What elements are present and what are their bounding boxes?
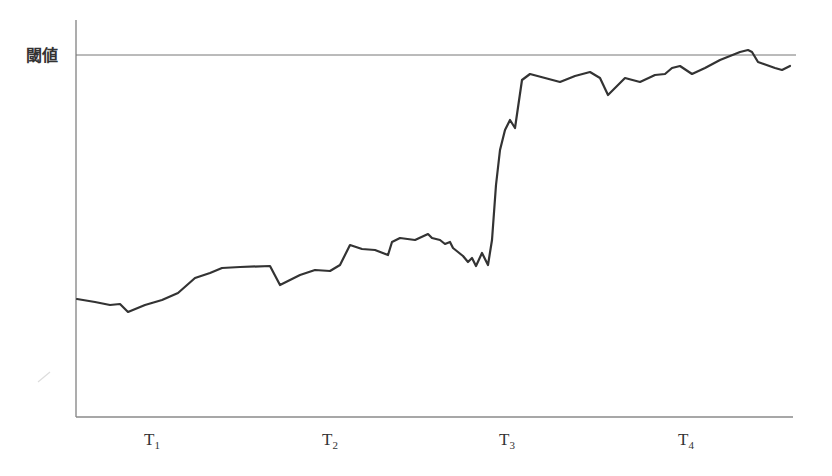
x-tick-label: T4 <box>678 430 694 451</box>
x-tick-label: T3 <box>499 430 515 451</box>
decorative-stroke <box>38 372 50 382</box>
line-chart: 閾値 T1T2T3T4 <box>0 0 832 476</box>
x-tick-label: T2 <box>322 430 338 451</box>
x-tick-label: T1 <box>144 430 160 451</box>
data-line <box>77 50 790 312</box>
threshold-label: 閾値 <box>26 46 58 65</box>
x-tick-labels: T1T2T3T4 <box>144 430 694 451</box>
